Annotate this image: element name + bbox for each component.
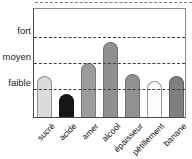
bar-acide (59, 94, 74, 117)
y-tick-label: moyen (2, 52, 31, 62)
x-tick-label: sucré (35, 121, 57, 143)
gridline-faible (34, 89, 185, 90)
bar-sucré (37, 76, 52, 117)
bar-épaisseur (125, 74, 140, 118)
y-tick-label: fort (17, 26, 31, 36)
x-tick-label: banane (161, 121, 188, 148)
bar-amer (81, 63, 96, 117)
bar-pétillement (147, 81, 162, 117)
gridline-moyen (34, 63, 185, 64)
plot-area (33, 8, 186, 118)
x-tick-label: acide (57, 121, 78, 142)
bar-chart: fortmoyenfaible sucréacideameralcoolépai… (0, 0, 192, 159)
bar-banane (169, 76, 184, 117)
y-tick-label: faible (8, 78, 31, 88)
x-tick-label: amer (80, 121, 101, 142)
cropped-top-gridline (35, 2, 192, 3)
bar-alcool (103, 42, 118, 117)
gridline-fort (34, 37, 185, 38)
